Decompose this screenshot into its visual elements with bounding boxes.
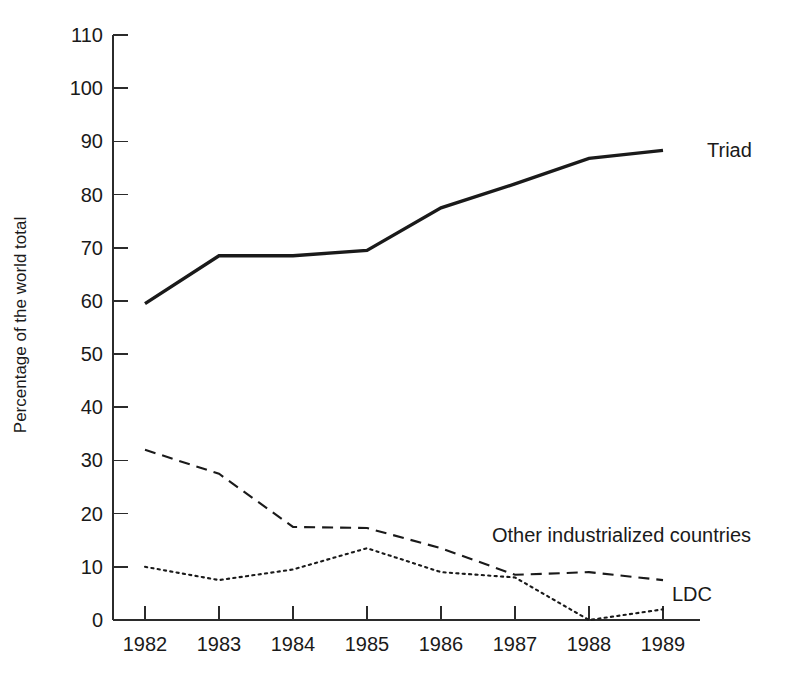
series-line-other-industrialized	[145, 450, 663, 580]
series-label-ldc: LDC	[672, 583, 712, 605]
x-tick-label: 1985	[345, 633, 390, 655]
x-tick-label: 1983	[197, 633, 242, 655]
series-line-triad	[145, 150, 663, 303]
chart-canvas: Percentage of the world total 0102030405…	[0, 0, 811, 674]
y-tick-label: 10	[81, 556, 103, 578]
data-series-group	[145, 150, 663, 620]
y-tick-label: 90	[81, 130, 103, 152]
x-tick-label: 1989	[641, 633, 686, 655]
y-tick-label: 50	[81, 343, 103, 365]
x-tick-label: 1984	[271, 633, 316, 655]
series-line-ldc	[145, 548, 663, 620]
y-tick-label: 0	[92, 609, 103, 631]
y-tick-label: 70	[81, 237, 103, 259]
x-axis-ticks: 19821983198419851986198719881989	[123, 606, 686, 655]
x-tick-label: 1986	[419, 633, 464, 655]
y-tick-label: 30	[81, 449, 103, 471]
y-tick-label: 80	[81, 184, 103, 206]
y-axis-ticks: 0102030405060708090100110	[70, 24, 128, 631]
x-tick-label: 1988	[567, 633, 612, 655]
x-tick-label: 1987	[493, 633, 538, 655]
series-label-triad: Triad	[707, 139, 752, 161]
series-label-other-industrialized: Other industrialized countries	[492, 524, 751, 546]
y-tick-label: 20	[81, 503, 103, 525]
line-chart-figure: Percentage of the world total 0102030405…	[0, 0, 811, 674]
y-tick-label: 110	[71, 24, 103, 46]
x-tick-label: 1982	[123, 633, 168, 655]
y-tick-label: 100	[70, 77, 103, 99]
y-axis-title: Percentage of the world total	[11, 217, 30, 433]
y-tick-label: 40	[81, 396, 103, 418]
y-tick-label: 60	[81, 290, 103, 312]
